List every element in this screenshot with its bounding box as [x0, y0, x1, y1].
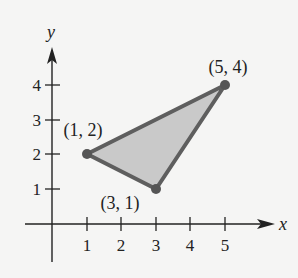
figure: 1 2 3 4 5 4 3 2 1 x y (1, 2) (3, 1) (5, …	[0, 0, 298, 278]
vertex-point	[220, 80, 230, 90]
coordinate-plane: 1 2 3 4 5 4 3 2 1 x y (1, 2) (3, 1) (5, …	[0, 0, 298, 278]
triangle	[87, 85, 225, 189]
vertex-point	[151, 184, 161, 194]
point-label: (1, 2)	[64, 120, 103, 141]
x-tick-label: 2	[117, 236, 126, 255]
x-tick-label: 4	[186, 236, 195, 255]
point-label: (3, 1)	[101, 193, 140, 214]
x-axis-label: x	[278, 214, 287, 234]
point-label: (5, 4)	[209, 57, 248, 78]
y-tick-label: 1	[33, 180, 42, 199]
y-tick-label: 2	[33, 145, 42, 164]
y-tick-label: 4	[33, 76, 42, 95]
y-axis-label: y	[45, 22, 55, 42]
x-tick-label: 3	[152, 236, 161, 255]
vertex-point	[82, 149, 92, 159]
x-tick-label: 1	[83, 236, 92, 255]
y-tick-label: 3	[33, 111, 42, 130]
x-tick-label: 5	[221, 236, 230, 255]
